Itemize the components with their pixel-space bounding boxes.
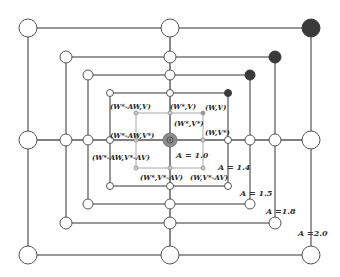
state-node <box>83 199 93 209</box>
state-node <box>107 90 114 97</box>
state-node <box>60 217 72 229</box>
state-node <box>161 246 179 264</box>
state-label: (W*-AW,V*-AV) <box>92 153 150 162</box>
state-node <box>161 19 179 37</box>
dark-node <box>302 19 320 37</box>
state-node <box>302 131 320 149</box>
amplitude-label: A = 1.4 <box>217 162 251 172</box>
state-node <box>83 135 93 145</box>
amplitude-label: A =2.0 <box>297 228 328 238</box>
state-node <box>167 90 174 97</box>
state-node <box>60 51 72 63</box>
dark-node <box>269 51 281 63</box>
state-label: (W*,V*) <box>174 119 204 128</box>
state-node <box>269 217 281 229</box>
state-node <box>107 183 114 190</box>
state-label: (W,V*) <box>205 128 230 137</box>
amplitude-labels: A = 1.0A = 1.4A = 1.5A =1.8A =2.0 <box>175 150 328 238</box>
state-node <box>201 166 205 170</box>
state-node <box>168 111 172 115</box>
amplitude-label: A =1.8 <box>265 206 296 216</box>
state-node <box>134 111 138 115</box>
state-node <box>165 70 175 80</box>
nested-squares-diagram: (W*-AW,V)(W*,V)(W,V)(W*,V*)(W,V*)(W*-AW,… <box>0 0 340 277</box>
state-node <box>245 135 255 145</box>
state-node <box>19 19 37 37</box>
state-node <box>167 183 174 190</box>
state-node <box>245 199 255 209</box>
state-node <box>168 166 172 170</box>
state-node <box>225 183 232 190</box>
amplitude-label: A = 1.0 <box>175 150 209 160</box>
state-node <box>164 217 176 229</box>
dark-node <box>245 70 255 80</box>
state-node <box>83 70 93 80</box>
lattice-nodes <box>19 19 320 264</box>
state-label: (W,V) <box>205 103 226 112</box>
state-node <box>165 199 175 209</box>
amplitude-label: A = 1.5 <box>239 188 273 198</box>
center-dot <box>169 139 171 141</box>
dark-node <box>225 90 232 97</box>
state-label: (W,V*-AV) <box>190 173 228 182</box>
state-node <box>269 134 281 146</box>
state-node <box>134 166 138 170</box>
state-node <box>19 246 37 264</box>
state-node <box>225 137 232 144</box>
state-node <box>201 138 205 142</box>
state-label: (W*,V*-AV) <box>140 173 183 182</box>
state-label: (W*-AW,V) <box>110 102 151 111</box>
state-node <box>164 51 176 63</box>
state-node <box>60 134 72 146</box>
state-label: (W*-AW,V*) <box>110 131 154 140</box>
state-node <box>302 246 320 264</box>
state-label: (W*,V) <box>170 102 196 111</box>
state-node <box>19 131 37 149</box>
